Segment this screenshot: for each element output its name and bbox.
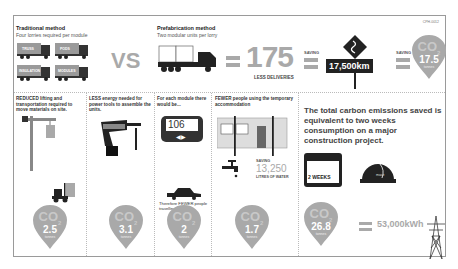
site-cabin-icon <box>217 116 295 156</box>
water-value: 13,250 <box>256 163 287 174</box>
co2-unit: tonnes <box>234 235 270 239</box>
row-divider <box>14 92 445 93</box>
lorry-icon <box>158 44 218 74</box>
distance-value: 17,500km <box>326 59 373 73</box>
traditional-title: Traditional method <box>16 25 65 31</box>
truck-label: PODS <box>60 47 70 51</box>
column-divider <box>154 93 155 256</box>
equals-icon <box>396 58 410 72</box>
co2-unit: tonnes <box>411 65 447 69</box>
water-unit: LITRES OF WATER <box>256 175 288 179</box>
counter-value: 106 <box>166 119 198 131</box>
truck-icon-1 <box>17 43 50 59</box>
saving-label: SAVING <box>304 50 319 55</box>
co2-unit: tonnes <box>166 235 202 239</box>
calendar-label: 2 WEEKS <box>308 174 331 180</box>
electricity-pylon-icon <box>426 216 446 260</box>
hard-hat-icon <box>360 154 396 186</box>
truck-label: INSULATION <box>19 69 40 73</box>
co2-pin: CO2 2.5 tonnes <box>32 204 68 250</box>
co2-value: 2.5 <box>32 224 68 235</box>
vs-label: VS <box>111 48 140 74</box>
helmet-brand: mace <box>376 173 385 177</box>
co2-unit: tonnes <box>32 235 68 239</box>
prefab-title: Prefabrication method <box>157 25 215 31</box>
tap <box>222 159 244 183</box>
column-divider <box>86 93 87 256</box>
truck-label: TRUSS <box>22 47 34 51</box>
column-divider <box>211 93 212 256</box>
equals-icon <box>359 222 372 234</box>
saving-label: SAVING <box>396 50 411 55</box>
energy-value: 53,000kWh <box>377 219 424 229</box>
co2-value: 1.7 <box>234 224 270 235</box>
column-divider <box>298 93 299 256</box>
co2-value: 17.5 <box>411 54 447 65</box>
co2-value: 2 <box>166 224 202 235</box>
truck-icon-2 <box>55 43 88 59</box>
truck-icon-4 <box>55 65 88 81</box>
co2-unit: tonnes <box>108 235 144 239</box>
column-caption: For each module there would be... <box>157 96 209 107</box>
co2-pin-top: CO2 17.5 tonnes <box>411 34 447 80</box>
summary-text: The total carbon emissions saved is equi… <box>304 106 444 146</box>
co2-pin: CO2 2 tonnes <box>166 204 202 250</box>
equals-icon <box>304 58 318 72</box>
header-code: CPH-0012 <box>423 20 439 24</box>
deliveries-label: LESS DELIVERIES <box>254 75 294 80</box>
hard-hat: mace <box>360 154 396 190</box>
co2-value: 3.1 <box>108 224 144 235</box>
deliveries-value: 175 <box>246 40 293 74</box>
equals-icon <box>226 56 240 70</box>
co2-unit: tonnes <box>303 232 339 236</box>
infographic-frame: CPH-0012 Traditional method Four lorries… <box>13 15 446 257</box>
truck-label: MODULES <box>58 69 76 73</box>
co2-value: 26.8 <box>303 221 339 232</box>
column-caption: LESS energy needed for power tools to as… <box>89 96 151 113</box>
forklift-icon <box>52 181 80 203</box>
traditional-trucks: TRUSS PODS INSULATION MODULES <box>16 42 96 86</box>
drill <box>99 116 149 170</box>
prefab-truck <box>158 44 218 78</box>
calendar: 2 WEEKS <box>304 153 342 187</box>
co2-pin: CO2 1.7 tonnes <box>234 204 270 250</box>
counter-display: 106 ◀▶ <box>161 116 203 142</box>
power-drill-icon <box>99 116 149 166</box>
counter-arrows-icon: ◀▶ <box>176 133 186 140</box>
co2-pin-total: CO2 26.8 tonnes <box>303 201 339 247</box>
temporary-cabin <box>217 116 295 160</box>
water-tap-icon <box>222 159 244 179</box>
truck-icon-3 <box>17 65 50 81</box>
column-caption: FEWER people using the temporary accommo… <box>215 96 295 107</box>
co2-pin: CO2 3.1 tonnes <box>108 204 144 250</box>
car-icon <box>166 186 202 200</box>
pylon <box>426 216 446 264</box>
prefab-subtitle: Two modular units per lorry <box>157 32 217 38</box>
traditional-subtitle: Four lorries required per module <box>16 32 87 38</box>
